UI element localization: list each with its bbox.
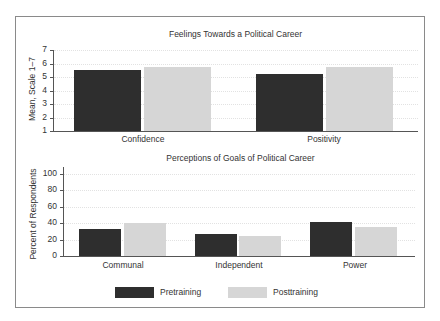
y-tick	[60, 240, 63, 241]
gridline	[64, 223, 415, 224]
chart-1-title: Feelings Towards a Political Career	[53, 29, 418, 39]
y-tick	[50, 91, 53, 92]
y-tick	[50, 104, 53, 105]
chart-2-category-label: Independent	[194, 260, 284, 270]
legend-swatch-pretraining	[115, 287, 154, 298]
chart-2-title: Perceptions of Goals of Political Career	[63, 153, 418, 163]
bar-communal-posttraining	[124, 223, 166, 256]
chart-1-category-label: Confidence	[98, 134, 188, 144]
y-tick	[50, 64, 53, 65]
gridline	[64, 207, 415, 208]
bar-independent-pretraining	[195, 234, 237, 256]
y-tick-label: 4	[23, 85, 47, 95]
y-tick	[50, 131, 53, 132]
legend-swatch-posttraining	[228, 287, 267, 298]
y-tick	[50, 77, 53, 78]
bar-communal-pretraining	[79, 229, 121, 256]
y-tick-label: 3	[23, 98, 47, 108]
y-tick-label: 0	[33, 250, 57, 260]
y-tick	[60, 174, 63, 175]
bar-confidence-posttraining	[144, 67, 211, 131]
bar-positivity-posttraining	[326, 67, 393, 131]
bar-power-pretraining	[310, 222, 352, 256]
legend-label-pretraining: Pretraining	[160, 287, 201, 297]
chart-2-x-axis	[63, 256, 415, 257]
bar-independent-posttraining	[239, 236, 281, 257]
bar-confidence-pretraining	[74, 70, 141, 131]
y-tick	[50, 118, 53, 119]
y-tick-label: 7	[23, 44, 47, 54]
bar-power-posttraining	[355, 227, 397, 256]
y-tick-label: 1	[23, 125, 47, 135]
gridline	[54, 50, 418, 51]
chart-1-x-axis	[53, 131, 418, 132]
chart-2-category-label: Power	[310, 260, 400, 270]
y-tick-label: 20	[33, 234, 57, 244]
bar-positivity-pretraining	[256, 74, 323, 131]
y-tick-label: 60	[33, 201, 57, 211]
y-tick-label: 5	[23, 71, 47, 81]
gridline	[64, 174, 415, 175]
chart-2-plot-area: 020406080100	[63, 167, 415, 257]
y-tick	[60, 223, 63, 224]
chart-1-plot-area: 1234567	[53, 50, 418, 132]
y-tick-label: 80	[33, 184, 57, 194]
gridline	[64, 190, 415, 191]
y-tick	[60, 256, 63, 257]
y-tick-label: 2	[23, 112, 47, 122]
y-tick	[60, 190, 63, 191]
gridline	[54, 64, 418, 65]
y-tick-label: 6	[23, 58, 47, 68]
chart-2-y-axis	[63, 167, 64, 257]
legend-label-posttraining: Posttraining	[273, 287, 318, 297]
chart-2-category-label: Communal	[78, 260, 168, 270]
y-tick-label: 40	[33, 217, 57, 227]
y-tick	[50, 50, 53, 51]
y-tick-label: 100	[33, 168, 57, 178]
chart-1-category-label: Positivity	[279, 134, 369, 144]
chart-2-ylabel: Percent of Respondents	[28, 164, 38, 264]
y-tick	[60, 207, 63, 208]
